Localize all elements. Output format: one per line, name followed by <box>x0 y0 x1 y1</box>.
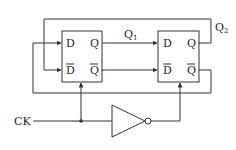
ck-label: CK <box>14 115 31 128</box>
flip-flop-1: D D Q Q <box>62 31 102 82</box>
circuit-diagram: D D Q Q D D Q Q Q1 Q2 CK <box>0 0 236 150</box>
ff1-qbar-label: Q <box>90 64 99 77</box>
ff1-d-label: D <box>66 37 75 50</box>
ff2-q-label: Q <box>187 37 196 50</box>
ff1-q-label: Q <box>90 37 99 50</box>
wire-q2bar-feedback <box>33 43 211 93</box>
ff2-dbar-label: D <box>163 64 172 77</box>
inverter <box>112 105 151 137</box>
q1-label: Q1 <box>124 28 138 42</box>
ff2-qbar-label: Q <box>187 64 196 77</box>
ff1-dbar-label: D <box>66 64 75 77</box>
flip-flop-2: D D Q Q <box>158 31 199 82</box>
schematic-svg: D D Q Q D D Q Q Q1 Q2 CK <box>0 0 236 150</box>
wire-ckbar-ff2 <box>151 83 180 121</box>
inverter-triangle <box>112 105 145 137</box>
q2-label: Q2 <box>215 21 229 35</box>
ff2-d-label: D <box>163 37 172 50</box>
